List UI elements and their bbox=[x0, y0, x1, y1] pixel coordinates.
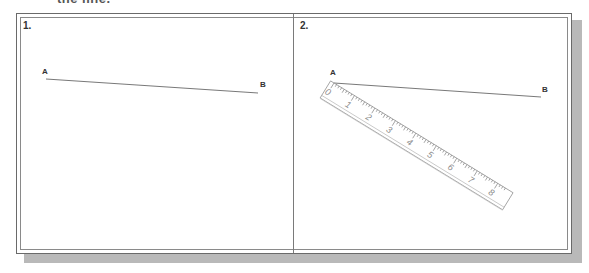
point-a-label-1: A bbox=[42, 67, 48, 76]
ruler: 0 1 2 3 4 5 6 7 8 bbox=[320, 81, 513, 210]
line-segment-ab-1 bbox=[46, 79, 258, 93]
panel-2-figure: A B 0 1 2 3 4 bbox=[320, 68, 548, 210]
ruler-bottom-edge bbox=[320, 98, 502, 210]
ruler-bevel-edge bbox=[322, 95, 504, 207]
diagram-figure: A B A B 0 bbox=[0, 0, 589, 273]
panel-1-figure: A B bbox=[42, 67, 266, 93]
point-a-label-2: A bbox=[330, 68, 336, 77]
point-b-label-1: B bbox=[260, 80, 266, 89]
line-segment-ab-2 bbox=[334, 83, 541, 97]
point-b-label-2: B bbox=[542, 85, 548, 94]
